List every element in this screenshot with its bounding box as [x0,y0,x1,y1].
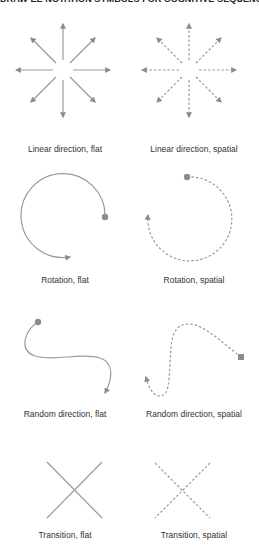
label-transition-spatial: Transition, spatial [129,530,259,540]
radial-arrows-dashed-icon [142,24,236,117]
random-curve-solid-icon [25,319,111,393]
cross-dashed-icon [155,463,210,518]
label-random-spatial: Random direction, spatial [129,409,259,419]
cross-solid-icon [47,462,102,518]
label-linear-spatial: Linear direction, spatial [129,144,259,154]
radial-arrows-solid-icon [16,24,110,117]
label-random-flat: Random direction, flat [0,409,130,419]
notation-diagram [0,0,259,548]
rotation-arc-dashed-icon [148,174,232,261]
label-rotation-spatial: Rotation, spatial [129,275,259,285]
random-curve-dashed-icon [146,324,244,396]
label-linear-flat: Linear direction, flat [0,144,130,154]
label-rotation-flat: Rotation, flat [0,275,130,285]
label-transition-flat: Transition, flat [0,530,130,540]
rotation-arc-solid-icon [21,174,108,258]
